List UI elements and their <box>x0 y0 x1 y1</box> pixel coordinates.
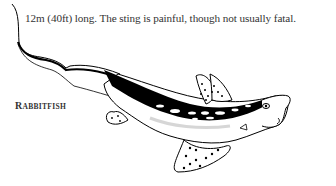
rabbitfish-illustration <box>0 0 336 186</box>
